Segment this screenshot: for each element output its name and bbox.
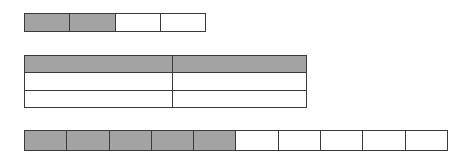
- shaded-part: [194, 131, 236, 150]
- unshaded-part: [116, 14, 161, 31]
- fraction-bar-tenths: [24, 130, 448, 151]
- shaded-part: [152, 131, 194, 150]
- unshaded-part: [279, 131, 321, 150]
- unshaded-part: [161, 14, 205, 31]
- unshaded-part: [236, 131, 278, 150]
- unshaded-part: [321, 131, 363, 150]
- shaded-part: [70, 14, 115, 31]
- unshaded-part: [406, 131, 447, 150]
- grid-row: [25, 91, 306, 107]
- shaded-part: [173, 56, 306, 72]
- unshaded-part: [173, 91, 306, 107]
- shaded-part: [25, 56, 173, 72]
- unshaded-part: [173, 73, 306, 89]
- unshaded-part: [363, 131, 405, 150]
- fraction-bar-fourths: [24, 13, 206, 32]
- shaded-part: [25, 131, 67, 150]
- shaded-part: [110, 131, 152, 150]
- shaded-part: [25, 14, 70, 31]
- unshaded-part: [25, 73, 173, 89]
- grid-row: [25, 73, 306, 90]
- shaded-part: [67, 131, 109, 150]
- grid-row: [25, 56, 306, 73]
- unshaded-part: [25, 91, 173, 107]
- fraction-grid-sixths: [24, 55, 307, 108]
